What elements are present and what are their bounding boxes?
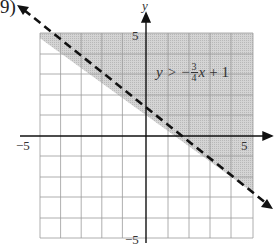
inequality-fraction: 3 4 [191,62,198,83]
x-max-label: 5 [241,138,248,154]
coordinate-plane [0,0,278,244]
inequality-operator: > [168,64,176,81]
inequality-constant: + 1 [209,64,229,81]
y-max-label: 5 [132,28,139,44]
problem-number: 9) [0,0,16,18]
x-min-label: −5 [16,138,30,154]
inequality-label: y > − 3 4 x + 1 [156,62,229,83]
y-axis-arrow-icon [142,13,150,22]
y-axis-label: y [142,0,148,14]
inequality-variable: x [199,64,206,81]
x-axis-arrow-icon [263,132,272,140]
inequality-sign: − [181,64,189,81]
y-min-label: −5 [125,232,139,244]
inequality-lhs: y [156,64,163,81]
fraction-denominator: 4 [192,73,197,83]
